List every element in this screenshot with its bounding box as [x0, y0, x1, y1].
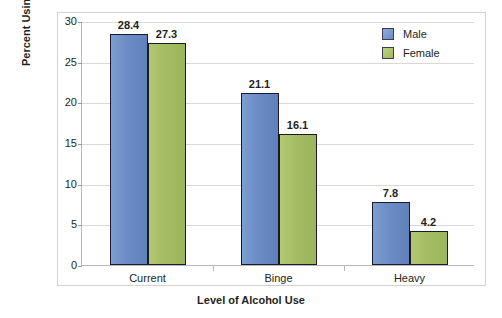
bar-value-label: 21.1 — [235, 78, 285, 90]
bar-value-label: 27.3 — [142, 28, 192, 40]
bar-heavy-female[interactable] — [410, 231, 448, 265]
y-axis-tick-label: 10 — [55, 179, 77, 190]
y-axis-tick-label: 25 — [55, 57, 77, 68]
y-axis-tick-label: 30 — [55, 16, 77, 27]
x-axis-category-binge: Binge — [213, 272, 344, 284]
bar-current-male[interactable] — [110, 34, 148, 265]
legend-item-female[interactable]: Female — [382, 43, 478, 62]
legend-swatch-female-icon — [382, 47, 394, 59]
y-axis-tick-mark — [78, 103, 82, 104]
y-axis-tick-label: 5 — [55, 219, 77, 230]
legend-label-female: Female — [403, 47, 440, 59]
x-axis-group-separator — [213, 266, 214, 271]
y-axis-tick-mark — [78, 266, 82, 267]
y-axis-title: Percent Using in Past Month — [20, 0, 32, 66]
y-axis-tick-label: 0 — [55, 260, 77, 271]
legend-label-male: Male — [403, 28, 427, 40]
y-axis-title-container: Percent Using in Past Month — [30, 22, 50, 266]
bar-heavy-male[interactable] — [372, 202, 410, 265]
chart-legend: Male Female — [382, 24, 478, 62]
bar-value-label: 4.2 — [404, 216, 454, 228]
bar-value-label: 7.8 — [366, 187, 416, 199]
x-axis-category-current: Current — [82, 272, 213, 284]
x-axis-group-separator — [344, 266, 345, 271]
bar-value-label: 16.1 — [273, 119, 323, 131]
y-axis-tick-mark — [78, 22, 82, 23]
y-axis-tick-label: 15 — [55, 138, 77, 149]
bar-binge-female[interactable] — [279, 134, 317, 265]
bar-current-female[interactable] — [148, 43, 186, 265]
y-axis-tick-mark — [78, 63, 82, 64]
x-axis-title: Level of Alcohol Use — [0, 294, 502, 306]
y-axis-tick-label: 20 — [55, 97, 77, 108]
y-axis-tick-mark — [78, 185, 82, 186]
bar-chart-figure: Percent Using in Past Month 051015202530… — [0, 0, 502, 318]
legend-swatch-male-icon — [382, 28, 394, 40]
legend-item-male[interactable]: Male — [382, 24, 478, 43]
y-axis-tick-mark — [78, 144, 82, 145]
y-axis-tick-mark — [78, 225, 82, 226]
x-axis-category-heavy: Heavy — [344, 272, 475, 284]
